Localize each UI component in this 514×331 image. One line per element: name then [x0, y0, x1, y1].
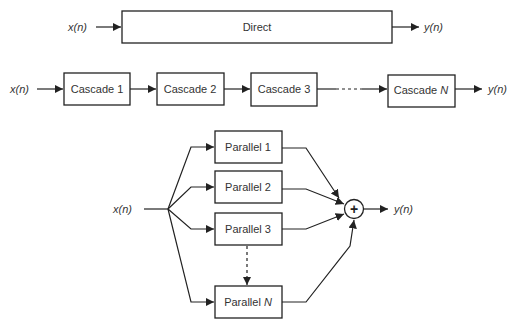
- direct-block-label: Direct: [243, 21, 272, 33]
- cascade-block-2-label: Cascade 2: [164, 83, 217, 95]
- parallel-3-to-sum: [282, 214, 344, 229]
- parallel-block-2-label: Parallel 2: [225, 181, 271, 193]
- direct-input-label: x(n): [67, 21, 87, 33]
- parallel-block-n-label: Parallel N: [224, 296, 272, 308]
- parallel-block-n-text: Parallel: [224, 296, 261, 308]
- cascade-block-n-suffix: N: [440, 84, 448, 96]
- cascade-block-3-label: Cascade 3: [258, 83, 311, 95]
- cascade-structure: x(n) Cascade 1 Cascade 2 Cascade 3 Casca…: [9, 73, 507, 107]
- branch-to-parallel-n: [168, 209, 214, 302]
- cascade-input-label: x(n): [9, 83, 29, 95]
- plus-icon: +: [350, 201, 358, 217]
- cascade-block-1-label: Cascade 1: [71, 83, 124, 95]
- parallel-structure: x(n) Parallel 1 Parallel 2 Parallel 3 Pa…: [112, 131, 413, 318]
- cascade-output-label: y(n): [487, 83, 507, 95]
- branch-to-parallel-3: [168, 209, 214, 229]
- parallel-n-to-sum: [282, 220, 354, 302]
- branch-to-parallel-1: [168, 147, 214, 209]
- parallel-block-3-label: Parallel 3: [225, 223, 271, 235]
- cascade-block-n-text: Cascade: [394, 84, 437, 96]
- filter-structures-diagram: x(n) Direct y(n) x(n) Cascade 1 Cascade …: [0, 0, 514, 331]
- parallel-block-1-label: Parallel 1: [225, 141, 271, 153]
- parallel-input-label: x(n): [112, 203, 132, 215]
- parallel-output-label: y(n): [393, 203, 413, 215]
- parallel-block-n-suffix: N: [264, 296, 272, 308]
- direct-output-label: y(n): [423, 21, 443, 33]
- direct-structure: x(n) Direct y(n): [67, 11, 443, 43]
- cascade-block-n-label: Cascade N: [394, 84, 448, 96]
